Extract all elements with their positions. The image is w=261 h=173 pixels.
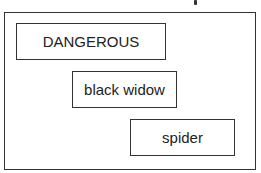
box-spider: spider xyxy=(130,119,235,156)
box-black-widow: black widow xyxy=(72,71,177,108)
box-label: black widow xyxy=(84,81,165,98)
box-label: DANGEROUS xyxy=(43,33,140,50)
cropped-glyph-fragment xyxy=(194,0,197,5)
box-label: spider xyxy=(162,129,203,146)
box-dangerous: DANGEROUS xyxy=(16,23,166,60)
